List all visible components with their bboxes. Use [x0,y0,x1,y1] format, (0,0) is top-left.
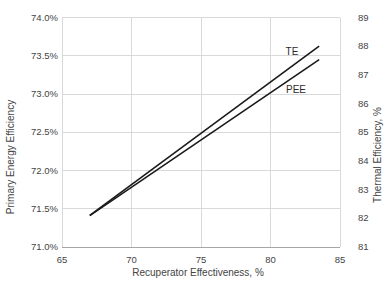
x-axis-tick-label: 85 [325,254,355,266]
right-axis-tick-label: 85 [358,126,388,138]
left-axis-tick-label: 74.0% [0,12,58,24]
left-axis-tick-label: 72.5% [0,126,58,138]
series-label-te: TE [277,46,307,58]
right-axis-tick-label: 81 [358,241,388,253]
left-axis-tick-label: 73.5% [0,50,58,62]
series-line-te [90,46,319,215]
x-axis-tick-label: 70 [117,254,147,266]
right-axis-tick-label: 84 [358,155,388,167]
right-axis-tick-label: 82 [358,212,388,224]
chart-plot-area [0,0,389,295]
right-axis-tick-label: 87 [358,69,388,81]
right-axis-tick-label: 86 [358,98,388,110]
series-line-pee [90,60,319,216]
left-axis-tick-label: 73.0% [0,88,58,100]
left-axis-title: Primary Energy Efficiency [5,57,17,257]
series-label-pee: PEE [281,84,311,96]
right-axis-tick-label: 88 [358,40,388,52]
left-axis-tick-label: 72.0% [0,165,58,177]
left-axis-tick-label: 71.0% [0,241,58,253]
x-axis-tick-label: 80 [256,254,286,266]
x-axis-title: Recuperator Effectiveness, % [48,267,348,279]
x-axis-tick-label: 75 [186,254,216,266]
left-axis-tick-label: 71.5% [0,203,58,215]
right-axis-tick-label: 89 [358,12,388,24]
x-axis-tick-label: 65 [47,254,77,266]
dual-axis-line-chart: Primary Energy Efficiency Thermal Effici… [0,0,389,295]
right-axis-tick-label: 83 [358,184,388,196]
